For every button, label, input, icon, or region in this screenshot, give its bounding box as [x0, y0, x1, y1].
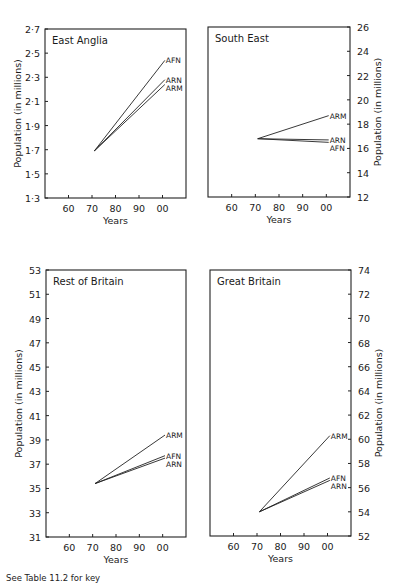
- x-tick-label: 60: [227, 541, 239, 552]
- series-label-arm: ARM: [330, 112, 347, 121]
- y-axis-label: Population (in millions): [13, 349, 24, 458]
- population-projection-figure: East Anglia6070809000Years1·31·51·71·92·…: [0, 0, 398, 588]
- chart-title: Rest of Britain: [53, 276, 124, 287]
- y-tick-label: 52: [358, 531, 370, 542]
- x-tick-label: 80: [110, 542, 122, 553]
- series-label-afn: AFN: [330, 144, 345, 153]
- x-tick-label: 60: [62, 203, 74, 214]
- y-axis-label: Population (in millions): [373, 349, 384, 458]
- plot-frame: [46, 270, 186, 537]
- x-tick-label: 70: [87, 542, 99, 553]
- x-tick-label: 90: [297, 202, 309, 213]
- y-tick-label: 26: [357, 22, 369, 33]
- series-label-afn: AFN: [166, 56, 181, 65]
- x-tick-label: 70: [249, 202, 261, 213]
- x-tick-label: 70: [251, 541, 263, 552]
- y-tick-label: 43: [29, 386, 41, 397]
- x-tick-label: 80: [109, 203, 121, 214]
- x-tick-label: 00: [321, 541, 333, 552]
- y-tick-label: 22: [357, 71, 369, 82]
- chart-panel-south-east: South East6070809000Years121416182022242…: [208, 22, 383, 225]
- chart-panel-rest-of-britain: Rest of Britain6070809000Years3133353739…: [13, 265, 186, 565]
- y-tick-label: 2·7: [25, 24, 40, 35]
- y-tick-label: 45: [29, 362, 41, 373]
- y-tick-label: 51: [29, 289, 41, 300]
- plot-frame: [210, 270, 351, 536]
- y-tick-label: 68: [358, 338, 370, 349]
- y-tick-label: 1·5: [25, 169, 40, 180]
- y-tick-label: 18: [357, 119, 369, 130]
- x-tick-label: 00: [157, 542, 169, 553]
- y-tick-label: 1·3: [25, 193, 40, 204]
- y-tick-label: 64: [358, 386, 370, 397]
- series-label-arn: ARN: [331, 482, 347, 491]
- chart-panel-east-anglia: East Anglia6070809000Years1·31·51·71·92·…: [12, 24, 186, 226]
- x-axis-label: Years: [102, 554, 128, 565]
- x-axis-label: Years: [102, 215, 128, 226]
- y-tick-label: 24: [357, 46, 369, 57]
- chart-title: South East: [215, 33, 269, 44]
- y-tick-label: 74: [358, 265, 370, 276]
- y-tick-label: 54: [358, 507, 370, 518]
- y-tick-label: 2·5: [25, 48, 40, 59]
- y-tick-label: 2·1: [25, 96, 40, 107]
- y-tick-label: 1·9: [25, 121, 40, 132]
- x-axis-label: Years: [265, 214, 291, 225]
- y-tick-label: 16: [357, 143, 369, 154]
- series-label-arm: ARM: [331, 432, 348, 441]
- chart-panel-great-britain: Great Britain6070809000Years525456586062…: [210, 265, 384, 564]
- x-tick-label: 80: [274, 541, 286, 552]
- series-line-arm: [259, 436, 330, 512]
- y-tick-label: 1·7: [25, 145, 40, 156]
- series-label-arm: ARM: [166, 431, 183, 440]
- x-tick-label: 70: [86, 203, 98, 214]
- y-tick-label: 62: [358, 410, 370, 421]
- y-axis-label: Population (in millions): [12, 59, 23, 168]
- y-tick-label: 72: [358, 289, 370, 300]
- series-label-arn: ARN: [166, 460, 182, 469]
- y-tick-label: 37: [29, 459, 41, 470]
- x-tick-label: 00: [320, 202, 332, 213]
- x-tick-label: 90: [133, 542, 145, 553]
- y-tick-label: 39: [29, 435, 41, 446]
- chart-title: East Anglia: [52, 35, 108, 46]
- y-tick-label: 70: [358, 313, 370, 324]
- y-tick-label: 49: [29, 314, 41, 325]
- x-tick-label: 60: [63, 542, 75, 553]
- x-tick-label: 90: [298, 541, 310, 552]
- y-tick-label: 60: [358, 434, 370, 445]
- x-tick-label: 00: [156, 203, 168, 214]
- series-line-arm: [94, 85, 165, 151]
- plot-frame: [208, 27, 350, 197]
- x-tick-label: 60: [226, 202, 238, 213]
- y-tick-label: 58: [358, 458, 370, 469]
- series-line-arn: [95, 458, 165, 483]
- series-line-afn: [94, 60, 165, 151]
- y-tick-label: 33: [29, 508, 41, 519]
- y-tick-label: 2·3: [25, 72, 40, 83]
- y-tick-label: 14: [357, 168, 369, 179]
- plot-frame: [45, 29, 186, 198]
- y-tick-label: 41: [29, 411, 41, 422]
- series-line-arn: [259, 480, 330, 511]
- footnote-key-reference: See Table 11.2 for key: [6, 573, 100, 583]
- x-tick-label: 80: [273, 202, 285, 213]
- y-tick-label: 53: [29, 265, 41, 276]
- x-tick-label: 90: [133, 203, 145, 214]
- y-tick-label: 47: [29, 338, 41, 349]
- series-line-arm: [258, 116, 329, 139]
- chart-title: Great Britain: [217, 276, 281, 287]
- y-tick-label: 12: [357, 192, 369, 203]
- y-tick-label: 20: [357, 95, 369, 106]
- series-label-arm: ARM: [166, 84, 183, 93]
- y-tick-label: 66: [358, 362, 370, 373]
- y-tick-label: 56: [358, 483, 370, 494]
- series-line-arn: [94, 80, 165, 151]
- x-axis-label: Years: [267, 553, 293, 564]
- y-tick-label: 35: [29, 483, 41, 494]
- y-axis-label: Population (in millions): [372, 58, 383, 167]
- series-line-arm: [95, 435, 165, 484]
- y-tick-label: 31: [29, 532, 41, 543]
